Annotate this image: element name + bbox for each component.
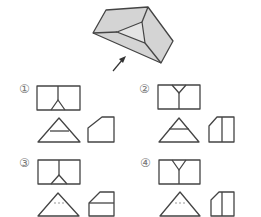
problem-diagram [0,0,261,217]
option-2-label[interactable]: ② [139,83,150,95]
option-3-label[interactable]: ③ [19,157,30,169]
option-1-views[interactable] [37,86,114,142]
option-4-views[interactable] [159,160,234,216]
option-1-label[interactable]: ① [19,83,30,95]
option-4-label[interactable]: ④ [140,157,151,169]
solid-3d [93,7,173,63]
view-direction-arrow-icon [113,56,126,71]
option-3-views[interactable] [38,160,114,216]
option-2-views[interactable] [158,85,234,142]
